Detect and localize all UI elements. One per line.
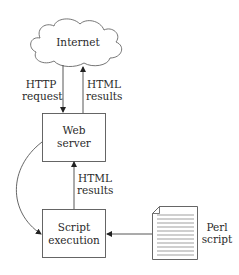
html-results-middle-line1: HTML [77, 172, 113, 184]
html-results-top-line2: results [86, 90, 122, 102]
perl-script-line1: Perl [201, 221, 233, 233]
internet-label: Internet [48, 36, 108, 49]
internet-text: Internet [56, 36, 100, 48]
script-execution-line1: Script [43, 221, 105, 234]
html-results-middle-line2: results [77, 184, 113, 196]
web-server-label: Web server [43, 124, 105, 149]
perl-script-label: Perl script [201, 221, 233, 245]
script-execution-line2: execution [43, 234, 105, 247]
web-server-line2: server [43, 137, 105, 150]
script-execution-label: Script execution [43, 221, 105, 246]
perl-script-line2: script [201, 233, 233, 245]
document-icon [153, 207, 198, 260]
html-results-top-line1: HTML [86, 78, 122, 90]
html-results-top-label: HTML results [86, 78, 122, 102]
http-request-line1: HTTP [22, 78, 60, 90]
web-server-line1: Web [43, 124, 105, 137]
curved-arrow [16, 142, 42, 234]
html-results-middle-label: HTML results [77, 172, 113, 196]
http-request-label: HTTP request [22, 78, 60, 102]
http-request-line2: request [22, 90, 60, 102]
